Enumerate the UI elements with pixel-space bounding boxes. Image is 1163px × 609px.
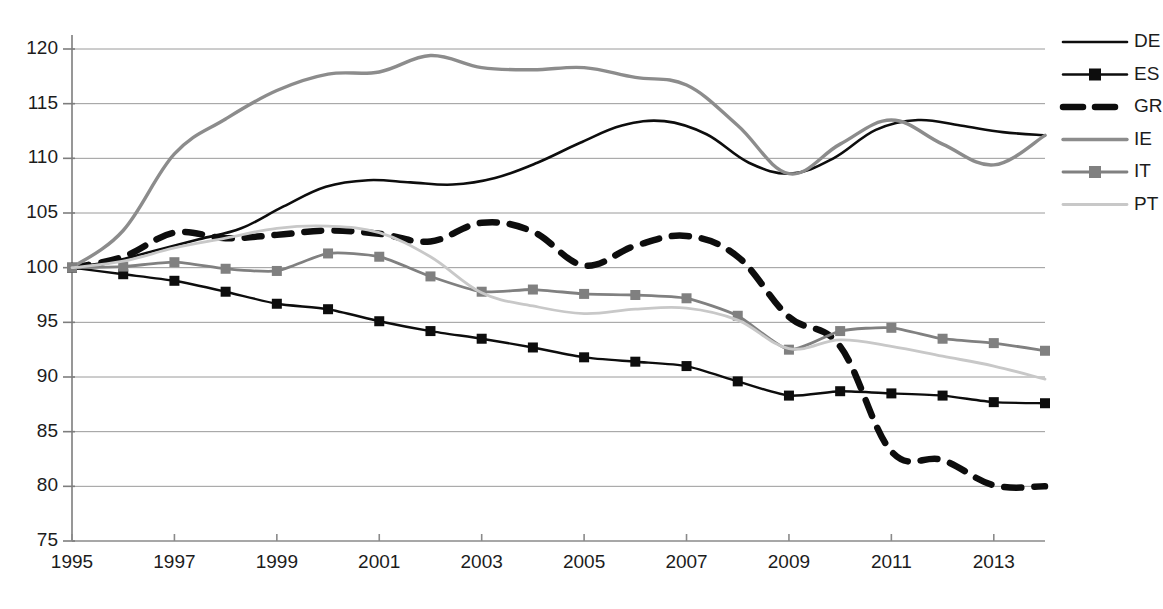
series-gr — [72, 222, 1045, 487]
x-axis-tick-label: 2011 — [851, 551, 931, 573]
legend-label-de[interactable]: DE — [1134, 30, 1160, 52]
data-point-marker — [425, 271, 435, 281]
y-axis-tick-label: 110 — [28, 146, 58, 168]
data-point-marker — [835, 326, 845, 336]
y-axis-tick-label: 105 — [26, 201, 58, 223]
series-de — [72, 120, 1045, 268]
data-point-marker — [989, 397, 999, 407]
data-point-marker — [374, 252, 384, 262]
legend-item-it[interactable] — [1063, 166, 1127, 178]
data-point-marker — [221, 264, 231, 274]
x-axis-tick-label: 2009 — [749, 551, 829, 573]
data-point-marker — [1040, 398, 1050, 408]
data-point-marker — [477, 334, 487, 344]
data-point-marker — [938, 334, 948, 344]
y-axis-tick-label: 115 — [28, 92, 58, 114]
data-point-marker — [579, 352, 589, 362]
data-point-marker — [323, 248, 333, 258]
data-point-marker — [835, 386, 845, 396]
data-point-marker — [784, 391, 794, 401]
y-axis-tick-label: 90 — [37, 365, 58, 387]
legend-label-gr[interactable]: GR — [1134, 95, 1163, 117]
y-axis-tick-label: 80 — [37, 474, 58, 496]
series-it — [67, 248, 1050, 355]
data-point-marker — [989, 338, 999, 348]
legend-label-ie[interactable]: IE — [1134, 128, 1152, 150]
data-point-marker — [528, 342, 538, 352]
data-point-marker — [425, 326, 435, 336]
data-point-marker — [1040, 346, 1050, 356]
x-axis-tick-label: 1995 — [32, 551, 112, 573]
data-point-marker — [682, 361, 692, 371]
series-line-gr — [72, 222, 1045, 487]
series-es — [67, 263, 1050, 409]
data-point-marker — [630, 357, 640, 367]
series-line-es — [72, 268, 1045, 404]
x-axis-tick-label: 2005 — [544, 551, 624, 573]
data-point-marker — [169, 257, 179, 267]
legend-label-it[interactable]: IT — [1134, 160, 1151, 182]
data-point-marker — [272, 266, 282, 276]
data-point-marker — [682, 293, 692, 303]
data-point-marker — [528, 285, 538, 295]
data-point-marker — [374, 316, 384, 326]
data-point-marker — [733, 376, 743, 386]
series-pt — [72, 226, 1045, 379]
data-point-marker — [579, 289, 589, 299]
legend-item-es[interactable] — [1063, 69, 1127, 81]
x-axis-tick-label: 2007 — [647, 551, 727, 573]
data-point-marker — [886, 388, 896, 398]
y-axis-tick-label: 100 — [26, 256, 58, 278]
x-axis-tick-label: 1997 — [134, 551, 214, 573]
x-axis-tick-label: 2013 — [954, 551, 1034, 573]
data-point-marker — [221, 287, 231, 297]
data-point-marker — [323, 304, 333, 314]
y-axis-tick-label: 85 — [37, 420, 58, 442]
y-axis-tick-label: 75 — [37, 529, 58, 551]
data-point-marker — [886, 323, 896, 333]
legend-label-pt[interactable]: PT — [1134, 193, 1158, 215]
y-axis-tick-label: 95 — [37, 310, 58, 332]
x-axis-tick-label: 2003 — [442, 551, 522, 573]
y-axis-tick-label: 120 — [26, 37, 58, 59]
data-point-marker — [272, 299, 282, 309]
data-point-marker — [169, 276, 179, 286]
series-line-pt — [72, 226, 1045, 379]
legend-marker-it — [1089, 166, 1101, 178]
x-axis-tick-label: 2001 — [339, 551, 419, 573]
data-point-marker — [630, 290, 640, 300]
legend-marker-es — [1089, 69, 1101, 81]
x-axis-tick-label: 1999 — [237, 551, 317, 573]
legend-label-es[interactable]: ES — [1134, 63, 1159, 85]
series-line-de — [72, 120, 1045, 268]
data-point-marker — [938, 391, 948, 401]
